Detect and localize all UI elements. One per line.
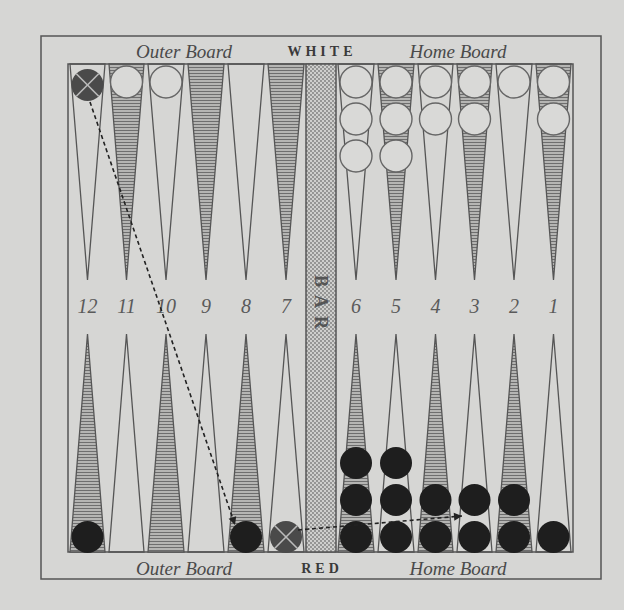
point-top-9[interactable] <box>188 64 224 280</box>
white-checker-1[interactable] <box>538 103 570 135</box>
point-number-8: 8 <box>241 295 251 317</box>
black-checker-6[interactable] <box>340 447 372 479</box>
bottom-right-label: Home Board <box>409 558 507 579</box>
white-checker-4[interactable] <box>420 66 452 98</box>
black-checker-2[interactable] <box>498 484 530 516</box>
black-checker-4[interactable] <box>420 484 452 516</box>
black-checker-3[interactable] <box>459 521 491 553</box>
top-right-label: Home Board <box>409 41 507 62</box>
point-number-11: 11 <box>117 295 136 317</box>
point-bottom-2[interactable] <box>496 334 532 552</box>
white-checker-5[interactable] <box>380 66 412 98</box>
black-checker-7[interactable] <box>270 521 302 553</box>
point-number-12: 12 <box>78 295 98 317</box>
svg-text:BAR: BAR <box>311 275 331 337</box>
point-top-7[interactable] <box>268 64 304 280</box>
top-center-label: WHITE <box>287 44 356 59</box>
point-bottom-11[interactable] <box>109 334 144 552</box>
point-bottom-6[interactable] <box>338 334 374 552</box>
black-checker-3[interactable] <box>459 484 491 516</box>
point-bottom-4[interactable] <box>418 334 453 552</box>
point-bottom-3[interactable] <box>457 334 492 552</box>
white-checker-6[interactable] <box>340 66 372 98</box>
black-checker-5[interactable] <box>380 521 412 553</box>
point-number-7: 7 <box>281 295 292 317</box>
black-checker-8[interactable] <box>230 521 262 553</box>
black-checker-12[interactable] <box>72 521 104 553</box>
point-bottom-1[interactable] <box>536 334 571 552</box>
point-bottom-10[interactable] <box>148 334 184 552</box>
bar-label: BAR <box>311 275 331 337</box>
point-number-4: 4 <box>431 295 441 317</box>
backgammon-board: Outer Board WHITE Home Board Outer Board… <box>0 0 624 610</box>
point-number-1: 1 <box>549 295 559 317</box>
white-checker-11[interactable] <box>111 66 143 98</box>
point-number-3: 3 <box>469 295 480 317</box>
point-number-5: 5 <box>391 295 401 317</box>
point-number-6: 6 <box>351 295 361 317</box>
black-checker-4[interactable] <box>420 521 452 553</box>
point-number-9: 9 <box>201 295 211 317</box>
black-checker-5[interactable] <box>380 484 412 516</box>
black-checker-2[interactable] <box>498 521 530 553</box>
point-bottom-5[interactable] <box>378 334 414 552</box>
white-checker-5[interactable] <box>380 140 412 172</box>
bottom-left-label: Outer Board <box>136 558 232 579</box>
black-checker-6[interactable] <box>340 484 372 516</box>
point-number-10: 10 <box>156 295 176 317</box>
white-checker-10[interactable] <box>150 66 182 98</box>
point-top-8[interactable] <box>228 64 264 280</box>
white-checker-6[interactable] <box>340 140 372 172</box>
white-checker-3[interactable] <box>459 66 491 98</box>
bottom-center-label: RED <box>301 561 343 576</box>
point-number-2: 2 <box>509 295 519 317</box>
white-checker-4[interactable] <box>420 103 452 135</box>
top-left-label: Outer Board <box>136 41 232 62</box>
point-bottom-9[interactable] <box>188 334 224 552</box>
white-checker-5[interactable] <box>380 103 412 135</box>
white-checker-3[interactable] <box>459 103 491 135</box>
black-checker-top-12[interactable] <box>72 69 104 101</box>
black-checker-5[interactable] <box>380 447 412 479</box>
white-checker-1[interactable] <box>538 66 570 98</box>
point-bottom-12[interactable] <box>70 334 105 552</box>
black-checker-1[interactable] <box>538 521 570 553</box>
white-checker-2[interactable] <box>498 66 530 98</box>
point-bottom-7[interactable] <box>268 334 304 552</box>
white-checker-6[interactable] <box>340 103 372 135</box>
